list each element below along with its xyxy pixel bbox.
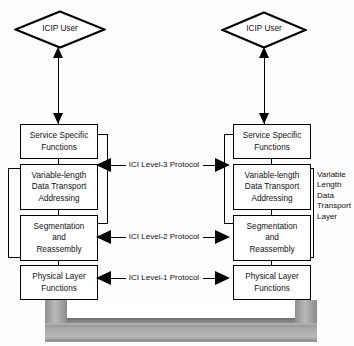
protocol-arrow-left-level-2: [96, 230, 111, 244]
box-line: Service Specific: [30, 130, 89, 141]
box-line: Functions: [41, 283, 77, 294]
variable-length-data-transport-layer-annotation: Variable Length Data Transport Layer: [317, 170, 351, 222]
annotation-line: Data: [317, 191, 351, 201]
box-line: Data Transport: [32, 181, 86, 192]
box-line: Physical Layer: [32, 271, 86, 282]
icip-user-label-left: ICIP User: [14, 24, 106, 34]
box-variable-length-data-transport-addressing-left[interactable]: Variable-length Data Transport Addressin…: [20, 164, 98, 210]
user-connector-arrow-down-left: [53, 113, 63, 124]
box-variable-length-data-transport-addressing-right[interactable]: Variable-length Data Transport Addressin…: [233, 164, 311, 210]
box-line: Physical Layer: [245, 271, 299, 282]
box-line: Variable-length: [32, 170, 87, 181]
protocol-arrow-left-level-3: [96, 158, 111, 172]
box-segmentation-and-reassembly-right[interactable]: Segmentation and Reassembly: [233, 215, 311, 261]
box-physical-layer-functions-left[interactable]: Physical Layer Functions: [20, 265, 98, 300]
right-connector-sar-to-plf: [271, 261, 272, 265]
icip-user-label-right: ICIP User: [221, 24, 307, 34]
protocol-label-level-3: ICI Level-3 Protocol: [124, 160, 204, 170]
box-physical-layer-functions-right[interactable]: Physical Layer Functions: [233, 265, 311, 300]
left-connector-ssf-to-vldta: [58, 159, 59, 164]
protocol-layer-diagram: ICIP User ICIP User Service Specific Fun…: [0, 0, 354, 346]
protocol-arrow-right-level-1: [215, 271, 230, 285]
box-line: Data Transport: [245, 181, 299, 192]
right-connector-ssf-to-vldta: [271, 159, 272, 164]
left-connector-vldta-to-sar: [58, 210, 59, 215]
box-line: Functions: [41, 142, 77, 153]
box-line: Segmentation: [34, 221, 85, 232]
protocol-arrow-right-level-3: [215, 158, 230, 172]
user-connector-arrow-down-right: [259, 113, 269, 124]
icip-user-diamond-right: ICIP User: [221, 11, 307, 49]
box-line: Variable-length: [245, 170, 300, 181]
icip-user-diamond-left: ICIP User: [14, 10, 106, 49]
box-line: Reassembly: [36, 244, 81, 255]
box-service-specific-functions-left[interactable]: Service Specific Functions: [20, 124, 98, 159]
user-connector-arrow-up-right: [259, 47, 269, 58]
box-line: Segmentation: [247, 221, 298, 232]
physical-medium-bar: [45, 300, 317, 342]
annotation-line: Length: [317, 180, 351, 190]
box-line: Addressing: [251, 193, 292, 204]
box-line: Functions: [254, 142, 290, 153]
box-line: Addressing: [38, 193, 79, 204]
box-segmentation-and-reassembly-left[interactable]: Segmentation and Reassembly: [20, 215, 98, 261]
protocol-label-level-1: ICI Level-1 Protocol: [124, 273, 204, 283]
physical-medium-shape: [45, 300, 317, 342]
protocol-arrow-left-level-1: [96, 271, 111, 285]
box-line: Service Specific: [243, 130, 302, 141]
annotation-line: Variable: [317, 170, 351, 180]
protocol-label-level-2: ICI Level-2 Protocol: [124, 232, 204, 242]
left-connector-sar-to-plf: [58, 261, 59, 265]
annotation-line: Transport: [317, 201, 351, 211]
box-line: and: [52, 232, 66, 243]
user-connector-arrow-up-left: [53, 47, 63, 58]
box-service-specific-functions-right[interactable]: Service Specific Functions: [233, 124, 311, 159]
box-line: and: [265, 232, 279, 243]
box-line: Reassembly: [249, 244, 294, 255]
protocol-arrow-right-level-2: [215, 230, 230, 244]
annotation-line: Layer: [317, 212, 351, 222]
box-line: Functions: [254, 283, 290, 294]
right-connector-vldta-to-sar: [271, 210, 272, 215]
